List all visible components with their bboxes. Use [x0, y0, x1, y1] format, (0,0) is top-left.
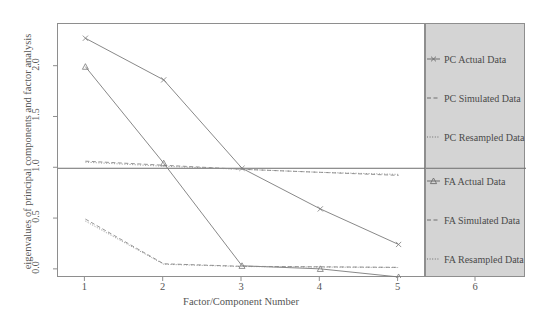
legend-key-dashed-line-icon — [427, 93, 441, 103]
plot-svg — [58, 24, 426, 278]
scree-plot-figure: eigenvalues of principal components and … — [0, 0, 543, 324]
legend-key-dashed-line-icon — [427, 215, 441, 225]
series-line-5 — [85, 221, 398, 267]
marker-x — [396, 242, 401, 247]
legend-item-2: PC Resampled Data — [427, 130, 543, 144]
y-tick-label: 1.5 — [30, 102, 41, 128]
x-tick-label: 3 — [229, 281, 253, 292]
y-tick-label: 1.0 — [30, 153, 41, 179]
marker-triangle — [82, 64, 88, 70]
marker-triangle — [396, 274, 402, 278]
marker-x — [161, 77, 166, 82]
x-axis-label: Factor/Component Number — [57, 296, 425, 307]
marker-x — [83, 36, 88, 41]
x-tick-label: 2 — [151, 281, 175, 292]
series-line-0 — [85, 38, 398, 244]
legend-panel: PC Actual DataPC Simulated DataPC Resamp… — [425, 23, 525, 277]
legend-item-4: FA Simulated Data — [427, 213, 543, 227]
y-tick-label: 2.0 — [30, 51, 41, 77]
legend-key-dotted-line-icon — [427, 254, 441, 264]
legend-label: PC Simulated Data — [444, 93, 521, 104]
x-tick-label: 4 — [307, 281, 331, 292]
y-tick-label: 0.0 — [30, 254, 41, 280]
legend-label: FA Simulated Data — [444, 215, 520, 226]
x-tick-label: 5 — [386, 281, 410, 292]
legend-label: PC Actual Data — [444, 54, 506, 65]
y-tick-label: 0.5 — [30, 204, 41, 230]
legend-item-0: PC Actual Data — [427, 52, 543, 66]
legend-key-dotted-line-icon — [427, 132, 441, 142]
legend-item-5: FA Resampled Data — [427, 252, 543, 266]
x-tick-label: 1 — [72, 281, 96, 292]
legend-key-triangle-icon — [427, 176, 441, 186]
legend-item-1: PC Simulated Data — [427, 91, 543, 105]
legend-label: PC Resampled Data — [444, 132, 525, 143]
plot-area — [57, 23, 425, 277]
legend-key-x-icon — [427, 54, 441, 64]
legend-item-3: FA Actual Data — [427, 174, 543, 188]
marker-x — [318, 206, 323, 211]
legend-label: FA Actual Data — [444, 176, 505, 187]
legend-label: FA Resampled Data — [444, 254, 524, 265]
series-line-4 — [85, 219, 398, 267]
x-tick-label-legend: 6 — [463, 281, 487, 292]
